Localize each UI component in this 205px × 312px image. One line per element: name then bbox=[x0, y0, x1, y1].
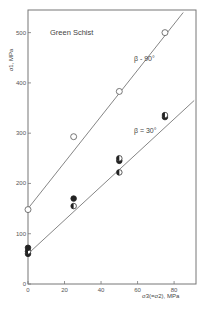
y-tick-label: 300 bbox=[16, 130, 27, 136]
y-tick-label: 100 bbox=[16, 231, 27, 237]
chart: 020406080 0100200300400500 Green Schist … bbox=[0, 0, 205, 312]
open-circle-marker bbox=[25, 207, 31, 213]
annotation-beta-30: β = 30° bbox=[134, 127, 157, 135]
x-tick-label: 40 bbox=[98, 287, 105, 293]
y-tick-label: 200 bbox=[16, 180, 27, 186]
x-axis-ticks: 020406080 bbox=[26, 281, 178, 293]
annotation-beta-90: β - 90° bbox=[134, 55, 155, 63]
fit-lines bbox=[28, 13, 194, 254]
data-points bbox=[25, 30, 168, 257]
y-tick-label: 500 bbox=[16, 30, 27, 36]
y-tick-label: 400 bbox=[16, 80, 27, 86]
chart-title: Green Schist bbox=[50, 28, 94, 37]
x-tick-label: 0 bbox=[26, 287, 30, 293]
open-circle-marker bbox=[71, 134, 77, 140]
open-circle-marker bbox=[116, 88, 122, 94]
filled-circle-marker bbox=[25, 245, 31, 251]
y-axis-label: σ1, MPa bbox=[8, 48, 14, 71]
plot-frame bbox=[28, 10, 196, 284]
x-axis-label: σ3(=σ2), MPa bbox=[142, 293, 180, 299]
open-circle-marker bbox=[162, 30, 168, 36]
filled-circle-marker bbox=[71, 196, 77, 202]
x-tick-label: 20 bbox=[61, 287, 68, 293]
x-tick-label: 60 bbox=[134, 287, 141, 293]
